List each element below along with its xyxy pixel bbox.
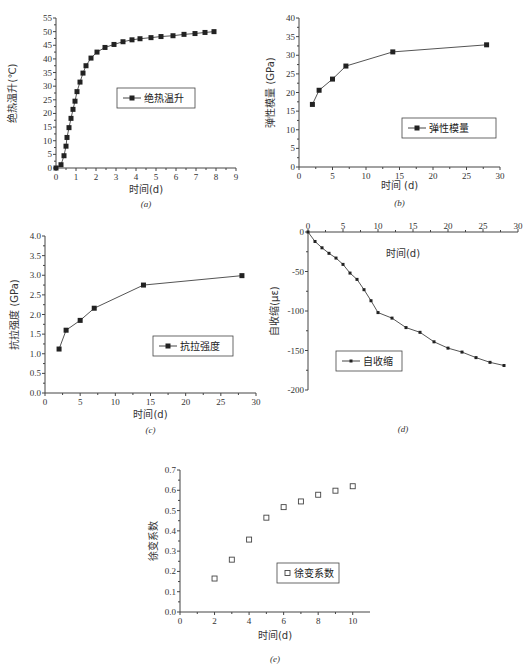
data-marker xyxy=(405,326,408,329)
x-tick-label: 4 xyxy=(247,616,252,626)
data-marker xyxy=(321,246,324,249)
x-tick-label: 20 xyxy=(429,171,439,181)
data-marker xyxy=(342,263,345,266)
y-tick-label: 40 xyxy=(286,13,296,23)
data-marker xyxy=(95,50,100,55)
data-marker xyxy=(78,318,83,323)
data-marker xyxy=(247,537,252,542)
data-marker xyxy=(349,272,352,275)
x-axis-title: 时间(d) xyxy=(129,183,163,195)
data-marker xyxy=(489,361,492,364)
figure-caption: (d) xyxy=(398,424,409,434)
x-tick-label: 30 xyxy=(514,221,524,231)
data-marker xyxy=(67,125,72,130)
legend: 自收缩 xyxy=(336,351,402,371)
x-tick-label: 10 xyxy=(362,171,372,181)
data-marker xyxy=(317,88,322,93)
x-tick-label: 5 xyxy=(78,397,83,407)
y-tick-label: 15 xyxy=(43,122,53,132)
figure-caption: (e) xyxy=(270,654,280,664)
x-tick-label: 15 xyxy=(409,221,419,231)
legend: 弹性模量 xyxy=(402,118,496,138)
chart-d: 0510152025300-50-100-150-200时间(d)自收缩(με)… xyxy=(268,221,523,434)
figure-caption: (b) xyxy=(394,198,405,208)
chart-a: 01234567890510152025303540455055时间(d)绝热温… xyxy=(6,13,239,209)
x-tick-label: 10 xyxy=(374,221,384,231)
y-tick-label: -200 xyxy=(288,385,305,395)
data-marker xyxy=(71,107,76,112)
data-marker xyxy=(149,35,154,40)
y-tick-label: 4.0 xyxy=(30,231,42,241)
y-tick-label: 2.5 xyxy=(30,290,42,300)
legend-marker-icon xyxy=(130,96,135,101)
y-tick-label: 45 xyxy=(43,40,53,50)
y-tick-label: 20 xyxy=(43,108,53,118)
x-tick-label: 25 xyxy=(462,171,472,181)
y-tick-label: 0.0 xyxy=(30,388,42,398)
y-tick-label: 5 xyxy=(48,149,53,159)
data-marker xyxy=(310,102,315,107)
data-marker xyxy=(171,33,176,38)
y-axis-title: 抗拉强度 (GPa) xyxy=(8,279,20,350)
x-tick-label: 10 xyxy=(348,616,358,626)
data-marker xyxy=(356,278,359,281)
data-marker xyxy=(316,492,321,497)
x-tick-label: 25 xyxy=(479,221,489,231)
data-marker xyxy=(298,499,303,504)
data-marker xyxy=(328,252,331,255)
y-tick-label: 2.0 xyxy=(30,310,42,320)
data-marker xyxy=(112,42,117,47)
data-marker xyxy=(264,515,269,520)
data-marker xyxy=(59,162,64,167)
data-marker xyxy=(89,56,94,61)
data-marker xyxy=(335,257,338,260)
data-marker xyxy=(330,77,335,82)
data-marker xyxy=(239,273,244,278)
legend: 绝热温升 xyxy=(117,88,195,108)
data-marker xyxy=(141,283,146,288)
figure-caption: (c) xyxy=(146,425,156,435)
y-tick-label: 0.4 xyxy=(165,526,177,536)
data-marker xyxy=(65,135,70,140)
x-tick-label: 6 xyxy=(281,616,286,626)
data-marker xyxy=(182,32,187,37)
y-tick-label: 0 xyxy=(300,227,305,237)
x-tick-label: 5 xyxy=(330,171,335,181)
x-tick-label: 1 xyxy=(74,172,79,182)
data-line xyxy=(312,45,486,105)
y-tick-label: 30 xyxy=(43,81,53,91)
data-marker xyxy=(391,317,394,320)
data-marker xyxy=(193,31,198,36)
y-tick-label: 0.5 xyxy=(165,506,177,516)
x-tick-label: 0 xyxy=(54,172,59,182)
y-tick-label: 25 xyxy=(43,95,53,105)
data-marker xyxy=(363,288,366,291)
y-tick-label: 5 xyxy=(291,143,296,153)
x-tick-label: 30 xyxy=(496,171,506,181)
data-marker xyxy=(307,231,310,234)
y-tick-label: 0 xyxy=(48,163,53,173)
data-marker xyxy=(447,347,450,350)
data-marker xyxy=(84,63,89,68)
x-tick-label: 0 xyxy=(297,171,302,181)
legend: 抗拉强度 xyxy=(153,336,233,356)
legend-label: 弹性模量 xyxy=(429,122,469,134)
legend: 徐变系数 xyxy=(277,563,339,583)
legend-label: 自收缩 xyxy=(363,355,393,367)
y-axis-title: 自收缩(με) xyxy=(268,286,280,336)
data-marker xyxy=(92,306,97,311)
y-tick-label: 10 xyxy=(286,125,296,135)
data-marker xyxy=(503,364,506,367)
x-tick-label: 8 xyxy=(316,616,321,626)
data-marker xyxy=(81,71,86,76)
legend-label: 徐变系数 xyxy=(294,567,334,579)
y-tick-label: 30 xyxy=(286,50,296,60)
y-axis-title: 弹性模量 (GPa) xyxy=(264,57,276,128)
legend-marker-icon xyxy=(415,126,420,131)
data-marker xyxy=(78,80,83,85)
y-tick-label: 15 xyxy=(286,106,296,116)
data-marker xyxy=(433,340,436,343)
y-tick-label: 0.1 xyxy=(165,587,176,597)
y-tick-label: 0.2 xyxy=(165,566,176,576)
y-tick-label: 20 xyxy=(286,88,296,98)
